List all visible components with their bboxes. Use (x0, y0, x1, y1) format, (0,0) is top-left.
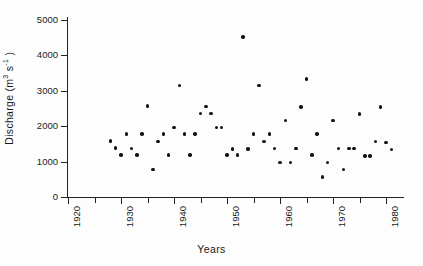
data-point (119, 153, 123, 157)
data-point (305, 77, 309, 81)
x-tick (227, 198, 228, 204)
y-tick-label: 1000 (18, 157, 58, 167)
data-point (315, 132, 319, 136)
data-point (384, 141, 388, 145)
x-tick (121, 198, 122, 204)
x-tick-label: 1930 (125, 206, 135, 227)
data-point (257, 84, 261, 88)
data-point (215, 126, 219, 130)
x-tick (360, 198, 361, 203)
data-point (135, 153, 139, 157)
data-point (183, 132, 187, 136)
data-point (167, 153, 171, 157)
data-point (231, 147, 235, 151)
data-point (225, 153, 229, 157)
y-tick (61, 197, 67, 198)
data-point (125, 132, 129, 136)
x-tick-label: 1920 (72, 206, 82, 227)
data-point (337, 147, 341, 151)
y-axis-title-open: (m (3, 79, 15, 95)
data-point (310, 153, 314, 157)
x-tick-label: 1980 (390, 206, 400, 227)
data-point (299, 105, 303, 109)
x-tick-label: 1970 (337, 206, 347, 227)
data-point (342, 168, 346, 172)
data-point (193, 132, 197, 136)
data-point (162, 132, 166, 136)
y-tick (61, 20, 67, 21)
x-tick (280, 198, 281, 204)
x-axis-title: Years (0, 243, 423, 255)
y-tick-label: 4000 (18, 50, 58, 60)
y-tick (61, 126, 67, 127)
data-point (374, 140, 378, 144)
data-point (262, 140, 266, 144)
data-point (368, 154, 372, 158)
data-point (358, 112, 362, 116)
data-point (273, 147, 277, 151)
data-point (352, 147, 356, 151)
y-axis-title-exponent-1: 3 (2, 74, 9, 78)
x-tick-label: 1960 (284, 206, 294, 227)
x-tick (307, 198, 308, 203)
data-point (146, 104, 150, 108)
data-point (278, 161, 282, 165)
data-point (204, 105, 208, 109)
data-point (326, 161, 330, 165)
y-tick (61, 55, 67, 56)
data-point (151, 168, 155, 172)
data-point (321, 175, 325, 179)
data-point (199, 112, 203, 116)
y-tick-label: 5000 (18, 15, 58, 25)
x-tick (148, 198, 149, 203)
y-tick-label: 2000 (18, 121, 58, 131)
data-point (268, 132, 272, 136)
x-tick-label: 1950 (231, 206, 241, 227)
data-point (220, 126, 224, 130)
data-point (246, 147, 250, 151)
data-point (252, 132, 256, 136)
x-tick (333, 198, 334, 204)
plot-area (68, 19, 404, 197)
data-point (379, 105, 383, 109)
x-tick (174, 198, 175, 204)
x-tick (68, 198, 69, 204)
data-point (188, 153, 192, 157)
y-axis-title-name: Discharge (3, 95, 15, 145)
data-point (363, 154, 367, 158)
y-axis-title-close: ) (3, 52, 15, 59)
x-tick (386, 198, 387, 204)
y-tick (61, 91, 67, 92)
data-point (209, 112, 213, 116)
data-point (178, 84, 182, 88)
data-point (130, 147, 134, 151)
y-axis-title: Discharge (m3 s-1 ) (2, 52, 15, 145)
x-tick-label: 1940 (178, 206, 188, 227)
x-tick (254, 198, 255, 203)
x-axis-line (67, 197, 404, 198)
x-tick (95, 198, 96, 203)
data-point (390, 148, 394, 152)
x-tick (201, 198, 202, 203)
y-tick (61, 162, 67, 163)
y-tick-label: 3000 (18, 86, 58, 96)
data-point (294, 147, 298, 151)
data-point (114, 146, 118, 150)
y-axis-title-exponent-2: -1 (2, 59, 9, 66)
data-point (140, 132, 144, 136)
data-point (172, 126, 176, 130)
data-point (241, 35, 245, 39)
data-point (331, 119, 335, 123)
data-point (289, 161, 293, 165)
data-point (156, 140, 160, 144)
data-point (109, 139, 113, 143)
y-tick-label: 0 (18, 192, 58, 202)
y-axis-title-mid: s (3, 66, 15, 75)
data-point (236, 153, 240, 157)
data-point (347, 147, 351, 151)
data-point (284, 119, 288, 123)
scatter-chart-figure: Discharge (m3 s-1 ) 01000200030004000500… (0, 0, 423, 266)
